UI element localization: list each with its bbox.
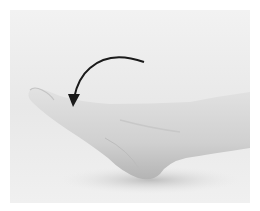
foot-photo — [10, 10, 250, 203]
foot-illustration — [10, 10, 250, 203]
